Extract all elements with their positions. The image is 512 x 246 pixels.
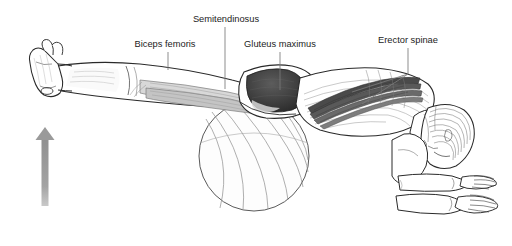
anatomy-illustration: Biceps femoris Semitendinosus Gluteus ma… <box>0 0 512 246</box>
label-gluteus-maximus: Gluteus maximus <box>244 39 316 49</box>
label-erector-spinae: Erector spinae <box>378 35 438 45</box>
stability-ball <box>199 101 309 211</box>
label-biceps-femoris: Biceps femoris <box>135 39 196 49</box>
label-semitendinosus: Semitendinosus <box>193 14 260 24</box>
arrow-shaft <box>42 140 49 206</box>
